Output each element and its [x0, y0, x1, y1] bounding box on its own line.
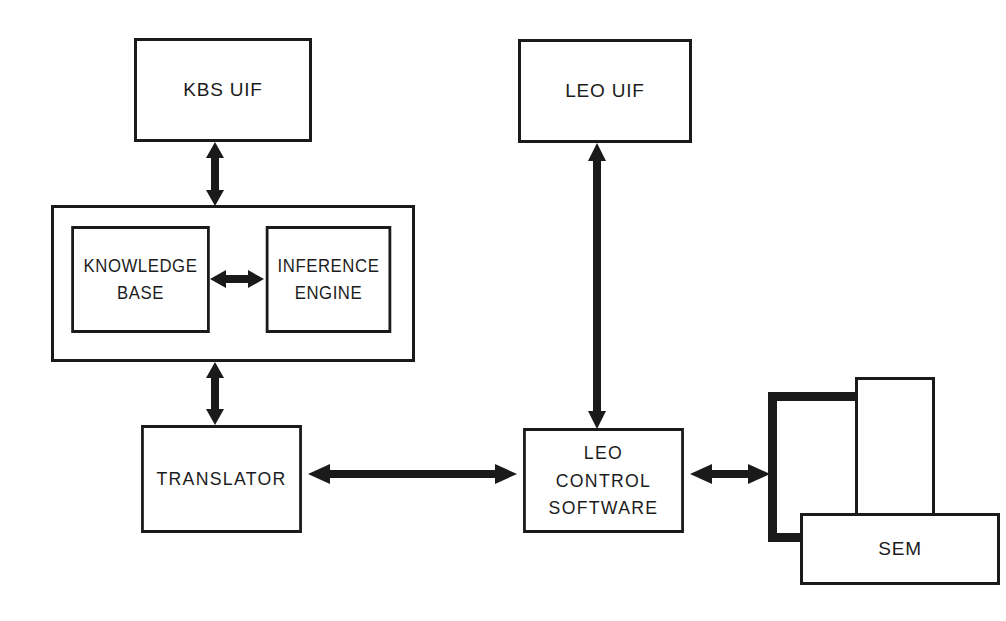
node-inference-engine: INFERENCE ENGINE: [266, 226, 392, 333]
node-kbs-container: KNOWLEDGE BASE INFERENCE ENGINE: [51, 205, 415, 362]
diagram-canvas: KBS UIF KNOWLEDGE BASE INFERENCE ENGINE: [0, 0, 1006, 621]
node-leo-control-software: LEO CONTROL SOFTWARE: [523, 428, 684, 533]
node-kbs-uif-label: KBS UIF: [183, 76, 263, 104]
node-sem-group: SEM: [760, 370, 1006, 595]
node-sem-label: SEM: [878, 538, 922, 560]
arrow-translator-to-leo-control: [308, 463, 517, 485]
arrow-knowledge-base-to-inference-engine: [210, 269, 264, 289]
node-knowledge-base: KNOWLEDGE BASE: [71, 226, 210, 333]
node-leo-control-software-label: LEO CONTROL SOFTWARE: [549, 439, 659, 522]
node-knowledge-base-label: KNOWLEDGE BASE: [84, 253, 198, 305]
node-leo-uif: LEO UIF: [518, 39, 692, 143]
arrow-leo-control-to-leo-uif: [587, 143, 607, 429]
node-inference-engine-label: INFERENCE ENGINE: [278, 253, 380, 305]
arrow-kbs-uif-to-kbs: [205, 142, 225, 206]
node-sem: SEM: [800, 513, 1000, 585]
sem-column-panel: [855, 377, 935, 519]
node-leo-uif-label: LEO UIF: [565, 77, 645, 105]
node-translator-label: TRANSLATOR: [156, 465, 286, 493]
arrow-kbs-to-translator: [205, 362, 225, 425]
arrow-leo-control-to-sem: [690, 463, 770, 485]
node-kbs-uif: KBS UIF: [134, 38, 312, 142]
node-translator: TRANSLATOR: [141, 425, 302, 533]
